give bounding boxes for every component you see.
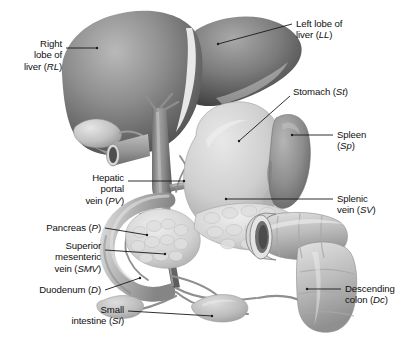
label-spleen: Spleen(Sp): [337, 129, 399, 152]
leader-dot-small-intestine: [211, 315, 213, 317]
label-hepatic-portal-vein: Hepaticportalvein (PV): [24, 172, 124, 206]
leader-dot-right-lobe-liver: [96, 47, 98, 49]
leader-dot-superior-mesenteric-vein: [164, 253, 166, 255]
label-pancreas: Pancreas (P): [6, 222, 101, 233]
label-duodenum: Duodenum (D): [4, 284, 101, 295]
leader-dot-duodenum: [139, 277, 141, 279]
leader-dot-spleen: [291, 134, 293, 136]
leader-dot-descending-colon: [306, 288, 308, 290]
leader-dot-stomach: [238, 140, 240, 142]
label-splenic-vein: Splenicvein (SV): [337, 193, 401, 216]
spleen-group: [267, 114, 310, 208]
illustration-canvas: Rightlobe ofliver (RL) Left lobe ofliver…: [0, 0, 403, 342]
spleen-shape: [269, 114, 311, 208]
leader-dot-splenic-vein: [225, 198, 227, 200]
label-right-lobe-liver: Rightlobe ofliver (RL): [0, 38, 62, 72]
label-small-intestine: Smallintestine (SI): [24, 304, 124, 327]
colon-lumen-inner-shadow: [259, 225, 268, 249]
leader-dot-left-lobe-liver: [217, 43, 219, 45]
label-descending-colon: Descendingcolon (Dc): [345, 283, 403, 306]
label-stomach: Stomach (St): [293, 86, 399, 97]
label-left-lobe-liver: Left lobe ofliver (LL): [296, 18, 396, 41]
label-superior-mesenteric-vein: Superiormesentericvein (SMV): [6, 240, 101, 274]
descending-colon-group: [246, 212, 357, 332]
leader-dot-pancreas: [146, 234, 148, 236]
cut-vessel-lumen: [109, 147, 117, 163]
leader-dot-hepatic-portal-vein: [183, 180, 185, 182]
small-intestine-loop-a: [192, 295, 248, 322]
